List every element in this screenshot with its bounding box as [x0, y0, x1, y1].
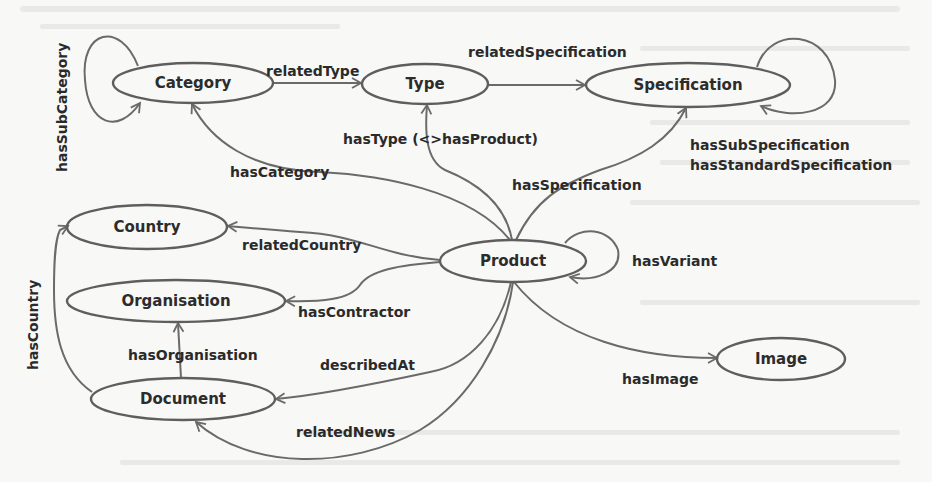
- node-label-country: Country: [113, 218, 180, 236]
- node-type[interactable]: Type: [362, 64, 488, 104]
- node-label-document: Document: [140, 390, 226, 408]
- edge-hasContractor: [286, 262, 440, 301]
- edge-label-hasContractor: hasContractor: [298, 304, 410, 320]
- node-product[interactable]: Product: [440, 240, 586, 282]
- edge-label-hasImage: hasImage: [622, 371, 699, 387]
- edge-label-relatedType: relatedType: [266, 63, 359, 79]
- edge-label-hasOrganisation: hasOrganisation: [128, 347, 258, 363]
- edge-label-hasType: hasType (<>hasProduct): [343, 131, 538, 147]
- node-label-image: Image: [755, 350, 807, 368]
- node-specification[interactable]: Specification: [586, 63, 790, 107]
- edge-hasVariant: [565, 231, 618, 278]
- node-document[interactable]: Document: [91, 378, 275, 420]
- edge-hasImage: [514, 282, 717, 358]
- ontology-diagram: Category Type Specification Country Prod…: [0, 0, 932, 482]
- node-label-product: Product: [480, 252, 546, 270]
- edge-hasSpecification: [516, 108, 686, 240]
- node-organisation[interactable]: Organisation: [67, 280, 285, 322]
- node-category[interactable]: Category: [113, 63, 273, 103]
- edge-describedAt: [276, 282, 511, 399]
- edge-label-hasSpecification: hasSpecification: [512, 177, 642, 193]
- edge-hasSubCategory: [85, 36, 140, 121]
- edge-label-hasSubCategory: hasSubCategory: [54, 43, 70, 172]
- edge-label-relatedNews: relatedNews: [296, 424, 395, 440]
- edge-label-hasCategory: hasCategory: [230, 164, 329, 180]
- edge-label-hasVariant: hasVariant: [632, 253, 717, 269]
- edge-label-relatedCountry: relatedCountry: [242, 237, 361, 253]
- edge-label-hasCountry: hasCountry: [25, 280, 41, 370]
- node-label-organisation: Organisation: [121, 292, 230, 310]
- node-label-category: Category: [155, 74, 232, 92]
- diagram-canvas: Category Type Specification Country Prod…: [0, 0, 932, 482]
- node-image[interactable]: Image: [717, 338, 845, 380]
- node-label-type: Type: [405, 75, 444, 93]
- node-label-specification: Specification: [633, 76, 742, 94]
- edge-label-relatedSpecification: relatedSpecification: [468, 44, 627, 60]
- edge-label-hasSubSpecification: hasSubSpecification: [690, 137, 850, 153]
- edge-hasType: [426, 105, 512, 240]
- node-country[interactable]: Country: [67, 205, 227, 249]
- edge-label-describedAt: describedAt: [320, 357, 415, 373]
- edge-label-hasStandardSpecification: hasStandardSpecification: [690, 157, 892, 173]
